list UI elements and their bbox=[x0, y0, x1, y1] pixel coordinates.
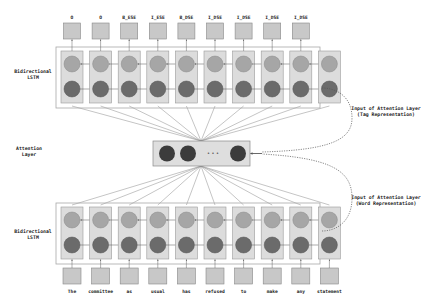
top-to-attention-line bbox=[72, 106, 201, 141]
top-to-attention-line bbox=[101, 106, 201, 141]
forward-unit-circle bbox=[236, 212, 252, 228]
backward-unit-circle bbox=[207, 81, 223, 97]
top-to-attention-line bbox=[129, 106, 201, 141]
forward-unit-circle bbox=[150, 56, 166, 72]
forward-unit-circle bbox=[321, 212, 337, 228]
top-bilstm-layer bbox=[56, 47, 340, 108]
backward-unit-circle bbox=[121, 81, 137, 97]
backward-unit-circle bbox=[150, 237, 166, 253]
lstm-cell bbox=[204, 51, 236, 103]
lstm-cell bbox=[233, 207, 265, 259]
word-label: make bbox=[267, 289, 278, 294]
backward-unit-circle bbox=[293, 81, 309, 97]
top-to-attention-line bbox=[186, 106, 201, 141]
tag-output-box bbox=[64, 23, 81, 39]
backward-unit-circle bbox=[64, 237, 80, 253]
word-label: any bbox=[297, 289, 306, 294]
attention-layer: • • • bbox=[153, 141, 262, 166]
lstm-cell bbox=[175, 207, 207, 259]
bottom-to-attention-line bbox=[201, 166, 215, 205]
tag-label: I_DSE bbox=[237, 15, 251, 21]
forward-unit-circle bbox=[236, 56, 252, 72]
bottom-lstm-label: LSTM bbox=[27, 235, 39, 240]
word-label: refused bbox=[205, 289, 225, 294]
bottom-to-attention-line bbox=[186, 166, 201, 205]
bottom-to-attention-line bbox=[158, 166, 201, 205]
bottom-to-attention-line bbox=[72, 166, 201, 205]
forward-unit-circle bbox=[264, 212, 280, 228]
word-label: has bbox=[182, 289, 191, 294]
tag-label: I_DSE bbox=[294, 15, 308, 21]
lstm-cell bbox=[147, 207, 179, 259]
attention-unit-circle bbox=[180, 146, 196, 162]
lstm-cell bbox=[233, 51, 265, 103]
word-label: as bbox=[126, 289, 132, 294]
word-input-box bbox=[92, 268, 110, 284]
top-to-attention-line bbox=[201, 106, 244, 141]
forward-unit-circle bbox=[93, 56, 109, 72]
word-input-box bbox=[206, 268, 224, 284]
top-to-attention-line bbox=[201, 106, 329, 141]
forward-unit-circle bbox=[93, 212, 109, 228]
top-to-attention-line bbox=[201, 106, 301, 141]
tag-representation-label: (Tag Representation) bbox=[357, 112, 415, 117]
word-input-box bbox=[292, 268, 310, 284]
backward-unit-circle bbox=[207, 237, 223, 253]
tag-label: O bbox=[71, 15, 74, 20]
backward-unit-circle bbox=[178, 81, 194, 97]
tag-output-box bbox=[264, 23, 281, 39]
word-input-box bbox=[177, 268, 195, 284]
backward-unit-circle bbox=[93, 81, 109, 97]
forward-unit-circle bbox=[178, 212, 194, 228]
backward-unit-circle bbox=[264, 237, 280, 253]
tag-output-box bbox=[121, 23, 138, 39]
forward-unit-circle bbox=[207, 56, 223, 72]
ellipsis: • • • bbox=[207, 150, 219, 156]
lstm-cell bbox=[118, 207, 150, 259]
attention-unit-circle bbox=[159, 146, 175, 162]
attention-layer-label: Attention bbox=[16, 146, 42, 151]
word-input-box bbox=[120, 268, 138, 284]
bilstm-attention-diagram: • • • OOB_ESEI_ESEB_DSEI_DSEI_DSEI_DSEI_… bbox=[0, 0, 445, 307]
backward-unit-circle bbox=[236, 237, 252, 253]
tag-output-box bbox=[178, 23, 195, 39]
lstm-cell bbox=[147, 51, 179, 103]
lstm-cell bbox=[261, 51, 293, 103]
backward-unit-circle bbox=[93, 237, 109, 253]
top-lstm-label: LSTM bbox=[27, 75, 39, 80]
top-lstm-label: Bidirectional bbox=[14, 69, 52, 74]
lstm-cell bbox=[90, 207, 122, 259]
forward-unit-circle bbox=[207, 212, 223, 228]
forward-unit-circle bbox=[264, 56, 280, 72]
tag-output-box bbox=[92, 23, 109, 39]
tag-label: B_ESE bbox=[122, 15, 136, 21]
forward-unit-circle bbox=[121, 56, 137, 72]
forward-unit-circle bbox=[121, 212, 137, 228]
lstm-cell bbox=[204, 207, 236, 259]
bottom-to-attention-line bbox=[201, 166, 272, 205]
bottom-to-attention-line bbox=[129, 166, 201, 205]
bottom-lstm-label: Bidirectional bbox=[14, 229, 52, 234]
tag-label: I_ESE bbox=[151, 15, 165, 21]
lstm-cell bbox=[261, 207, 293, 259]
forward-unit-circle bbox=[293, 56, 309, 72]
top-to-attention-line bbox=[201, 106, 272, 141]
forward-unit-circle bbox=[150, 212, 166, 228]
lstm-cell bbox=[290, 51, 322, 103]
bottom-to-attention-line bbox=[201, 166, 329, 205]
bottom-bilstm-layer bbox=[56, 203, 340, 264]
forward-unit-circle bbox=[64, 212, 80, 228]
word-label: statement bbox=[317, 289, 342, 294]
word-representation-label: Input of Attention Layer bbox=[351, 195, 420, 200]
word-input-box bbox=[320, 268, 338, 284]
word-label: usual bbox=[151, 289, 165, 294]
lstm-cell bbox=[90, 51, 122, 103]
lstm-cell bbox=[318, 51, 340, 103]
backward-unit-circle bbox=[293, 237, 309, 253]
tag-label: I_DSE bbox=[208, 15, 222, 21]
backward-unit-circle bbox=[321, 237, 337, 253]
bottom-to-attention-line bbox=[101, 166, 201, 205]
tag-label: O bbox=[99, 15, 102, 20]
attention-layer-label: Layer bbox=[22, 152, 37, 157]
tag-output-box bbox=[207, 23, 224, 39]
